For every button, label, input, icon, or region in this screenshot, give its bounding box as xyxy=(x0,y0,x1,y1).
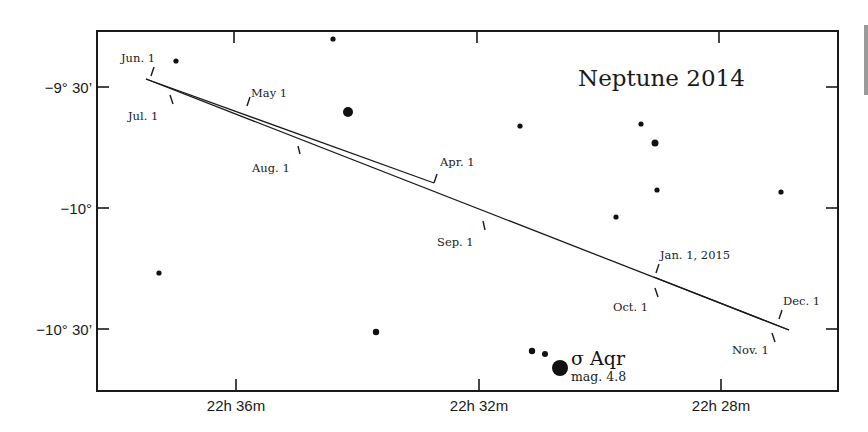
date-label-sep1: Sep. 1 xyxy=(437,235,474,249)
neptune-star-chart: −9° 30’ −10° −10° 30’ 22h 36m 22h 32m 22… xyxy=(0,0,868,432)
edge-bar xyxy=(864,25,868,95)
date-label-jul1: Jul. 1 xyxy=(127,109,158,123)
star xyxy=(156,270,161,275)
star-sigma-aqr xyxy=(552,360,568,376)
star xyxy=(652,140,659,147)
date-label-jan1-2015: Jan. 1, 2015 xyxy=(659,248,730,262)
y-axis-ticks xyxy=(97,87,838,329)
star-name-sigma-aqr: σ Aqr xyxy=(571,347,626,369)
x-label-22h32m: 22h 32m xyxy=(450,397,508,414)
date-label-dec1: Dec. 1 xyxy=(783,294,820,308)
y-label-10-30: −10° 30’ xyxy=(36,321,92,338)
y-label-9-30: −9° 30’ xyxy=(45,79,92,96)
date-label-may1: May 1 xyxy=(251,86,287,100)
date-label-nov1: Nov. 1 xyxy=(732,343,769,357)
star xyxy=(542,351,548,357)
star xyxy=(654,187,659,192)
chart-title: Neptune 2014 xyxy=(578,65,745,91)
date-label-oct1: Oct. 1 xyxy=(613,300,648,314)
date-label-apr1: Apr. 1 xyxy=(439,155,475,169)
date-label-jun1: Jun. 1 xyxy=(120,51,155,65)
star-magnitude: mag. 4.8 xyxy=(571,369,626,384)
x-label-22h28m: 22h 28m xyxy=(692,397,750,414)
star xyxy=(373,329,379,335)
star xyxy=(778,189,783,194)
date-label-aug1: Aug. 1 xyxy=(251,161,290,175)
star xyxy=(638,121,643,126)
star xyxy=(613,214,618,219)
y-label-10: −10° xyxy=(61,200,92,217)
star xyxy=(330,36,335,41)
neptune-track xyxy=(146,79,789,330)
star xyxy=(343,107,353,117)
star xyxy=(173,58,178,63)
x-label-22h36m: 22h 36m xyxy=(207,397,265,414)
star xyxy=(529,348,535,354)
star xyxy=(517,123,522,128)
